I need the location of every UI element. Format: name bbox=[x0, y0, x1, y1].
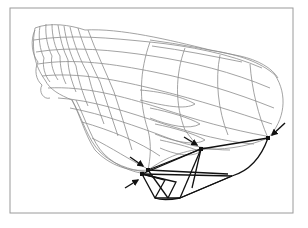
control-point-1 bbox=[140, 172, 144, 176]
figure-frame bbox=[10, 8, 293, 213]
control-point-3 bbox=[199, 147, 203, 151]
arrow-icon bbox=[272, 123, 285, 135]
control-wireframe bbox=[142, 138, 268, 200]
arrow-icon bbox=[130, 157, 143, 166]
control-point-4 bbox=[266, 136, 270, 140]
gray-mesh bbox=[32, 24, 283, 174]
wireframe-canvas bbox=[0, 0, 308, 228]
wireframe-figure bbox=[0, 0, 308, 228]
arrow-icon bbox=[125, 180, 138, 188]
control-point-2 bbox=[146, 168, 150, 172]
